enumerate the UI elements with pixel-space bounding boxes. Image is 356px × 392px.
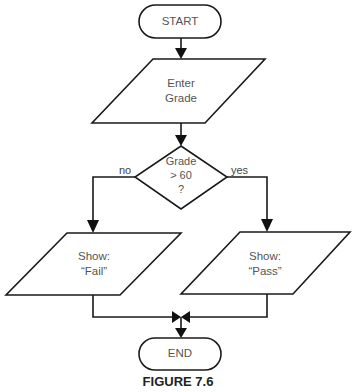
arrowhead-icon <box>87 220 99 233</box>
arrowhead-icon <box>261 219 273 232</box>
end-label: END <box>139 346 221 361</box>
start-label: START <box>139 14 221 29</box>
connector-yes-branch <box>227 177 267 221</box>
arrowhead-icon <box>175 135 187 146</box>
merge-arrowhead-right-icon <box>181 311 190 323</box>
input-grade-label: Enter Grade <box>128 76 234 106</box>
decision-label: Grade > 60 ? <box>151 154 211 196</box>
figure-caption: FIGURE 7.6 <box>0 374 356 389</box>
fail-output-label: Show: “Fail” <box>44 249 144 279</box>
arrowhead-icon <box>175 328 187 338</box>
yes-branch-label: yes <box>231 164 248 176</box>
connector-no-branch <box>93 177 135 222</box>
connector-pass-merge <box>190 294 267 317</box>
no-branch-label: no <box>119 164 131 176</box>
arrowhead-icon <box>175 48 187 59</box>
connector-fail-merge <box>93 295 172 317</box>
pass-output-label: Show: “Pass” <box>215 249 315 279</box>
flowchart-canvas <box>0 0 356 392</box>
merge-arrowhead-left-icon <box>172 311 181 323</box>
